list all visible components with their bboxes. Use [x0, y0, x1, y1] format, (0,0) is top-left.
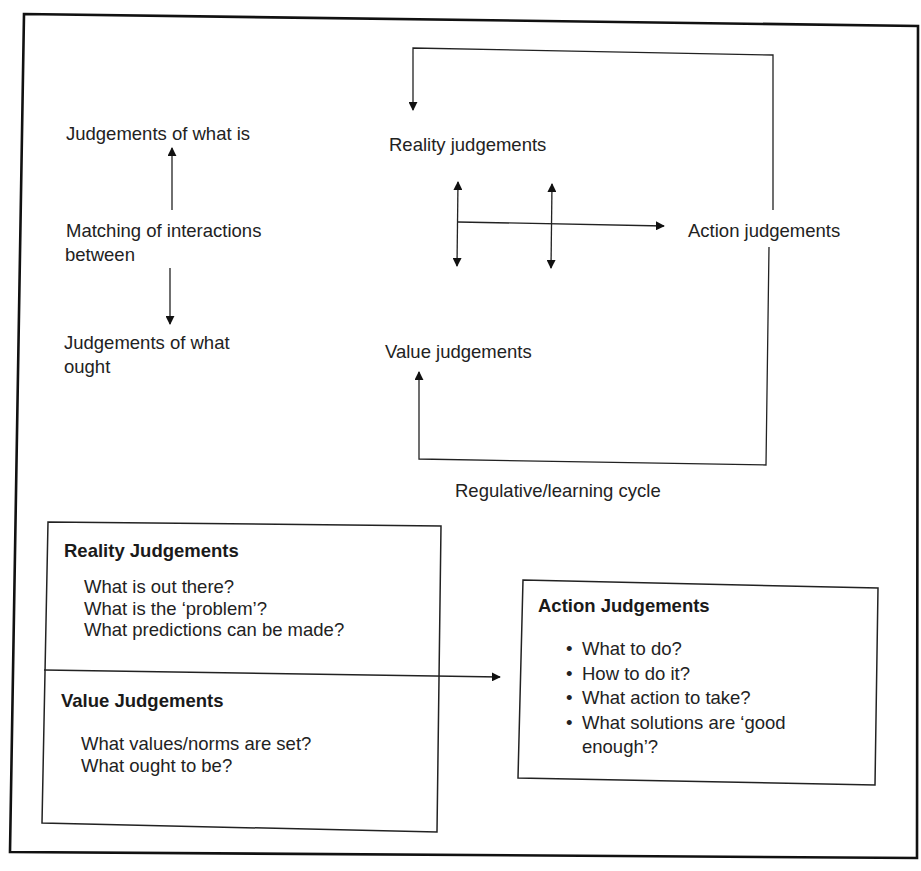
arrow-to-action	[458, 222, 664, 226]
label-what-ought-line1: Judgements of what	[64, 332, 230, 354]
reality-question: What predictions can be made?	[84, 619, 344, 641]
action-bullets: What to do? How to do it? What action to…	[566, 637, 866, 760]
action-bullet: What solutions are ‘good enough’?	[566, 711, 832, 760]
value-question: What ought to be?	[81, 755, 311, 777]
value-question: What values/norms are set?	[81, 733, 311, 755]
label-matching-line1: Matching of interactions	[66, 220, 261, 242]
label-value-judgements: Value judgements	[385, 341, 532, 363]
value-questions: What values/norms are set? What ought to…	[81, 733, 311, 776]
action-bullet: What action to take?	[566, 686, 866, 711]
reality-questions: What is out there? What is the ‘problem’…	[84, 576, 344, 641]
loop-top	[413, 48, 773, 210]
label-matching-line2: between	[65, 244, 135, 266]
double-arrow-right	[551, 184, 552, 268]
action-bullet: How to do it?	[566, 662, 866, 687]
value-box-title: Value Judgements	[61, 690, 223, 712]
action-box-title: Action Judgements	[538, 595, 710, 617]
box-divider-arrow	[44, 670, 500, 677]
reality-box-title: Reality Judgements	[64, 540, 239, 562]
label-action-judgements: Action judgements	[688, 220, 840, 242]
label-reality-judgements: Reality judgements	[389, 134, 546, 156]
reality-value-box	[42, 522, 441, 832]
double-arrow-left	[457, 182, 458, 266]
label-regulative-cycle: Regulative/learning cycle	[455, 480, 661, 502]
action-bullet: What to do?	[566, 637, 866, 662]
label-what-ought-line2: ought	[64, 356, 110, 378]
label-judgements-what-is: Judgements of what is	[66, 123, 250, 145]
reality-question: What is the ‘problem’?	[84, 598, 344, 620]
reality-question: What is out there?	[84, 576, 344, 598]
